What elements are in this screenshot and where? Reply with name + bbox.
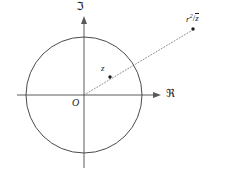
point-z-marker — [108, 75, 111, 78]
complex-plane-inversion-figure: ℑ ℜ O z r2/z — [0, 0, 226, 171]
real-axis-arrowhead — [153, 92, 161, 98]
imaginary-axis-label: ℑ — [76, 1, 84, 12]
origin-label: O — [72, 98, 79, 108]
inverse-label-numerator: r2 — [186, 13, 193, 24]
point-z-label: z — [101, 64, 105, 73]
point-inverse-marker — [191, 27, 194, 30]
figure-canvas — [0, 0, 226, 171]
real-axis-label: ℜ — [166, 88, 175, 99]
imaginary-axis-arrowhead — [81, 16, 87, 24]
point-inverse-label: r2/z — [186, 13, 199, 24]
inverse-label-denominator-conjugate: z — [195, 14, 199, 23]
